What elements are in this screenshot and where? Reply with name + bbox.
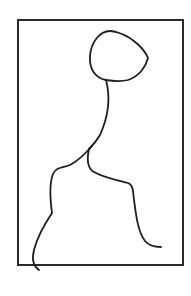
left-shoulder-body-outline	[33, 146, 92, 270]
line-drawing	[0, 0, 191, 296]
right-shoulder-body-outline	[88, 149, 161, 247]
neck-line	[89, 80, 108, 149]
head-outline	[90, 31, 148, 81]
